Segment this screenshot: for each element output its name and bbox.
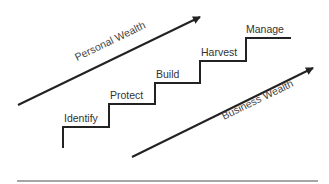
business-wealth-arrow: Business Wealth xyxy=(132,68,313,157)
personal-wealth-label: Personal Wealth xyxy=(73,18,148,62)
personal-wealth-arrow: Personal Wealth xyxy=(18,17,200,105)
step-harvest-label: Harvest xyxy=(201,46,237,58)
step-protect-label: Protect xyxy=(110,89,143,101)
wealth-staircase-diagram: Personal Wealth Business Wealth Identify… xyxy=(0,0,329,184)
step-identify-label: Identify xyxy=(64,112,99,124)
business-wealth-label: Business Wealth xyxy=(220,77,296,122)
step-manage-label: Manage xyxy=(246,23,284,35)
step-build-label: Build xyxy=(156,68,180,80)
